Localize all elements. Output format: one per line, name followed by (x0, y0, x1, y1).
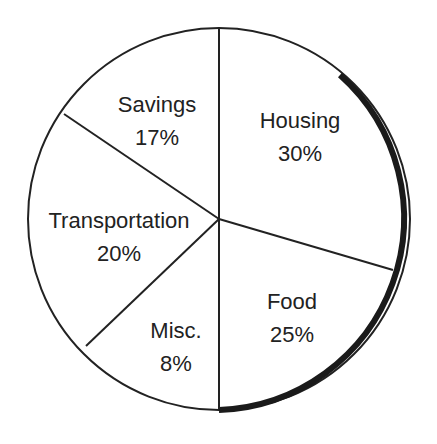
slice-label-name: Savings (118, 92, 196, 117)
slice-label-name: Transportation (48, 208, 189, 233)
slice-label-pct: 25% (270, 322, 314, 347)
slice-label-name: Housing (260, 108, 341, 133)
slice-label-name: Food (267, 289, 317, 314)
slice-label-pct: 8% (160, 351, 192, 376)
slice-label-name: Misc. (150, 318, 201, 343)
slice-label-pct: 30% (278, 141, 322, 166)
slice-label-pct: 17% (135, 125, 179, 150)
slice-label-pct: 20% (97, 241, 141, 266)
pie-chart: Housing 30% Food 25% Misc. 8% Transporta… (0, 0, 437, 444)
